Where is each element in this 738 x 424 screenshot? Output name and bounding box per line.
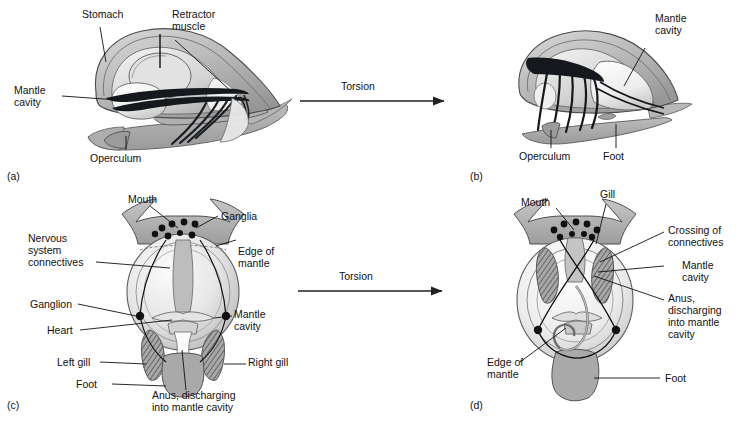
panel-letter-a: (a) xyxy=(7,170,20,182)
label-a-retractor-muscle: Retractor muscle xyxy=(172,8,215,32)
label-d-edge-of-mantle: Edge of mantle xyxy=(487,356,523,380)
label-b-foot: Foot xyxy=(603,150,624,162)
figure-svg xyxy=(0,0,738,424)
label-c-nervous-system-connectives: Nervous system connectives xyxy=(28,232,83,268)
label-b-mantle-cavity: Mantle cavity xyxy=(655,12,687,36)
label-d-gill: Gill xyxy=(600,188,615,200)
label-a-stomach: Stomach xyxy=(82,8,123,20)
label-c-right-gill: Right gill xyxy=(248,356,288,368)
label-d-crossing-of-connectives: Crossing of connectives xyxy=(668,224,723,248)
panel-a-illustration xyxy=(62,27,292,150)
label-c-anus: Anus, discharging into mantle cavity xyxy=(152,389,235,413)
label-c-left-gill: Left gill xyxy=(57,356,90,368)
panel-letter-b: (b) xyxy=(470,170,483,182)
label-d-mantle-cavity: Mantle cavity xyxy=(682,259,714,283)
label-c-mouth: Mouth xyxy=(128,193,157,205)
label-d-anus: Anus, discharging into mantle cavity xyxy=(668,292,722,340)
label-c-heart: Heart xyxy=(47,324,73,336)
panel-d-illustration xyxy=(514,199,664,401)
panel-c-illustration xyxy=(78,199,246,397)
panel-letter-c: (c) xyxy=(7,399,19,411)
label-b-operculum: Operculum xyxy=(519,150,570,162)
torsion-arrow-top-label: Torsion xyxy=(341,80,375,92)
figure-canvas: Stomach Retractor muscle Mantle cavity O… xyxy=(0,0,738,424)
panel-letter-d: (d) xyxy=(470,399,483,411)
panel-b-illustration xyxy=(519,31,692,148)
label-c-foot: Foot xyxy=(76,378,97,390)
label-a-operculum: Operculum xyxy=(90,152,141,164)
label-a-mantle-cavity: Mantle cavity xyxy=(14,84,46,108)
label-d-foot: Foot xyxy=(665,372,686,384)
label-d-mouth: Mouth xyxy=(521,196,550,208)
label-c-mantle-cavity: Mantle cavity xyxy=(234,308,266,332)
label-c-edge-of-mantle: Edge of mantle xyxy=(238,245,274,269)
label-c-ganglia: Ganglia xyxy=(221,210,257,222)
label-c-ganglion: Ganglion xyxy=(30,298,72,310)
torsion-arrow-bottom-label: Torsion xyxy=(339,270,373,282)
